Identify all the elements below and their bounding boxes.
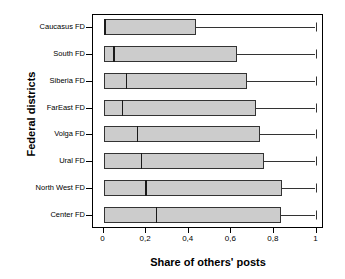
whisker-cap [316, 130, 317, 139]
x-axis-tick-label: 0,8 [267, 234, 278, 243]
category-label-south-fd: South FD [53, 50, 85, 58]
whisker-line [247, 81, 315, 82]
median-line [141, 153, 143, 169]
category-label-center-fd: Center FD [50, 211, 85, 219]
median-line [122, 100, 124, 116]
category-label-ural-fd: Ural FD [59, 157, 85, 165]
category-tick [86, 81, 92, 82]
category-label-siberia-fd: Siberia FD [50, 77, 85, 85]
median-line [104, 19, 106, 35]
x-axis-tick-label: 1 [313, 234, 317, 243]
box-center-fd [104, 207, 282, 223]
whisker-cap [316, 210, 317, 219]
category-tick [86, 54, 92, 55]
whisker-cap [316, 76, 317, 85]
category-tick [86, 134, 92, 135]
box-caucasus-fd [104, 19, 197, 35]
median-line [137, 126, 139, 142]
median-line [145, 180, 147, 196]
whisker-line [260, 134, 315, 135]
median-line [126, 73, 128, 89]
category-tick [86, 108, 92, 109]
whisker-line [196, 27, 315, 28]
whisker-line [237, 54, 316, 55]
box-volga-fd [104, 126, 261, 142]
x-axis-tick [103, 228, 104, 233]
x-axis-tick-label: 0 [100, 234, 104, 243]
category-label-north-west-fd: North West FD [36, 184, 85, 192]
whisker-line [256, 108, 316, 109]
whisker-cap [316, 183, 317, 192]
x-axis-title: Share of others' posts [96, 256, 320, 268]
whisker-cap [316, 50, 317, 59]
x-axis-tick-label: 0,2 [140, 234, 151, 243]
category-tick [86, 215, 92, 216]
box-plot-chart: Federal districts Caucasus FDSouth FDSib… [0, 0, 345, 279]
category-label-volga-fd: Volga FD [54, 131, 85, 139]
whisker-line [264, 161, 315, 162]
category-label-caucasus-fd: Caucasus FD [40, 24, 85, 32]
median-line [113, 46, 115, 62]
y-axis-title: Federal districts [25, 39, 37, 189]
category-tick [86, 161, 92, 162]
whisker-line [281, 215, 315, 216]
whisker-cap [316, 157, 317, 166]
whisker-cap [316, 103, 317, 112]
x-axis-tick [145, 228, 146, 233]
median-line [156, 207, 158, 223]
x-axis-tick [188, 228, 189, 233]
whisker-line [282, 188, 315, 189]
x-axis-tick [230, 228, 231, 233]
category-tick [86, 27, 92, 28]
whisker-cap [316, 23, 317, 32]
box-ural-fd [104, 153, 265, 169]
box-fareast-fd [104, 100, 256, 116]
x-axis-tick-label: 0,4 [182, 234, 193, 243]
x-axis-tick-label: 0,6 [225, 234, 236, 243]
x-axis-tick [273, 228, 274, 233]
category-tick [86, 188, 92, 189]
box-south-fd [104, 46, 237, 62]
box-north-west-fd [104, 180, 283, 196]
category-label-fareast-fd: FarEast FD [47, 104, 85, 112]
x-axis-tick [316, 228, 317, 233]
